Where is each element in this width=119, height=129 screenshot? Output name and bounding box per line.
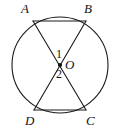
center-label-o: O [65,58,74,71]
point-label-a: A [21,2,29,15]
point-label-c: C [86,114,95,127]
geometry-canvas [0,0,119,129]
geometry-figure: A B D C O 1 2 [0,0,119,129]
angle-label-2: 2 [56,68,62,80]
point-label-b: B [84,2,92,15]
angle-label-1: 1 [56,48,62,60]
point-label-d: D [25,114,34,127]
